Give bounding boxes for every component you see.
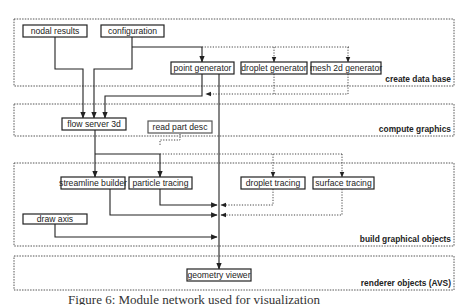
group-label: build graphical objects	[360, 234, 452, 244]
svg-text:droplet tracing: droplet tracing	[246, 178, 301, 188]
module-streamline-builder: streamline builder	[59, 177, 127, 189]
module-nodal-results: nodal results	[23, 25, 87, 37]
group-label: renderer objects (AVS)	[361, 278, 451, 288]
svg-text:geometry viewer: geometry viewer	[187, 270, 250, 280]
svg-text:droplet generator: droplet generator	[241, 63, 307, 73]
module-flow-server-3d: flow server 3d	[62, 118, 126, 130]
module-read-part-desc: read part desc	[148, 121, 212, 133]
svg-text:surface tracing: surface tracing	[315, 178, 372, 188]
module-droplet-generator: droplet generator	[241, 62, 307, 74]
svg-text:streamline builder: streamline builder	[59, 178, 127, 188]
figure-caption: Figure 6: Module network used for visual…	[0, 291, 471, 305]
module-geometry-viewer: geometry viewer	[187, 269, 251, 281]
svg-text:configuration: configuration	[108, 26, 157, 36]
svg-text:particle tracing: particle tracing	[133, 178, 189, 188]
svg-text:mesh 2d generator: mesh 2d generator	[310, 63, 382, 73]
svg-text:point generator: point generator	[174, 63, 232, 73]
svg-text:read part desc: read part desc	[153, 122, 209, 132]
module-mesh-2d-generator: mesh 2d generator	[310, 62, 382, 74]
module-point-generator: point generator	[171, 62, 234, 74]
module-droplet-tracing: droplet tracing	[241, 177, 305, 189]
group-label: compute graphics	[379, 124, 451, 134]
module-configuration: configuration	[101, 25, 164, 37]
svg-text:flow server 3d: flow server 3d	[67, 119, 121, 129]
module-surface-tracing: surface tracing	[313, 177, 374, 189]
module-draw-axis: draw axis	[23, 214, 87, 224]
module-network-diagram: create data base compute graphics build …	[0, 0, 471, 305]
group-label: create data base	[385, 74, 451, 84]
module-particle-tracing: particle tracing	[129, 177, 192, 189]
svg-text:nodal results: nodal results	[31, 26, 80, 36]
svg-text:draw axis: draw axis	[37, 214, 73, 224]
